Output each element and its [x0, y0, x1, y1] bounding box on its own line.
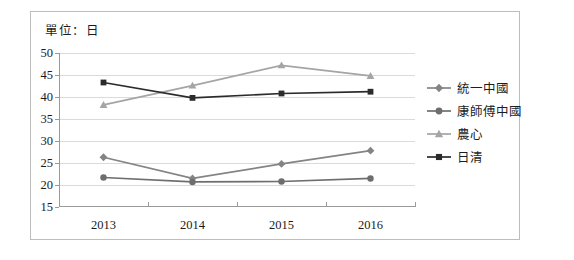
y-axis-label: 25	[41, 156, 54, 171]
legend-item-label: 日清	[457, 147, 483, 166]
y-axis-label: 35	[41, 112, 54, 127]
data-point	[368, 89, 374, 95]
legend-item[interactable]: 日清	[426, 145, 518, 168]
data-point	[189, 179, 195, 185]
chart-frame: 單位：日 1520253035404550 2013201420152016 統…	[30, 11, 520, 240]
series-line	[104, 151, 371, 179]
data-point	[367, 175, 373, 181]
y-axis-label: 30	[41, 134, 54, 149]
series-line	[104, 178, 371, 182]
legend-item-label: 農心	[457, 124, 483, 143]
data-point	[278, 178, 284, 184]
circle-marker-icon	[426, 104, 452, 118]
series-triangle	[100, 61, 375, 108]
data-point	[101, 80, 107, 86]
series-circle	[100, 174, 373, 185]
data-point	[100, 153, 108, 161]
legend-item[interactable]: 農心	[426, 122, 518, 145]
x-axis-label: 2014	[180, 218, 205, 233]
y-axis-label: 40	[41, 90, 54, 105]
series-layer	[59, 53, 415, 207]
series-square	[101, 80, 374, 101]
legend: 統一中國康師傅中國農心日清	[426, 76, 518, 168]
y-axis-label: 45	[41, 68, 54, 83]
legend-item[interactable]: 統一中國	[426, 76, 518, 99]
y-axis-label: 50	[41, 46, 54, 61]
series-line	[104, 65, 371, 105]
chart-screenshot: 單位：日 1520253035404550 2013201420152016 統…	[0, 0, 574, 260]
x-axis-label: 2013	[91, 218, 116, 233]
x-axis-label: 2015	[269, 218, 294, 233]
data-point	[100, 174, 106, 180]
data-point	[279, 91, 285, 97]
triangle-marker-icon	[426, 127, 452, 141]
series-diamond	[100, 147, 375, 183]
y-axis-label: 20	[41, 178, 54, 193]
legend-item[interactable]: 康師傅中國	[426, 99, 518, 122]
x-axis-label: 2016	[358, 218, 383, 233]
data-point	[190, 95, 196, 101]
data-point	[278, 160, 286, 168]
legend-item-label: 康師傅中國	[457, 101, 522, 120]
y-axis-tick	[55, 207, 59, 208]
diamond-marker-icon	[426, 81, 452, 95]
x-axis-tick	[415, 202, 416, 207]
square-marker-icon	[426, 150, 452, 164]
data-point	[367, 147, 375, 155]
plot-area: 1520253035404550 2013201420152016	[59, 53, 415, 207]
y-axis-label: 15	[41, 200, 54, 215]
unit-label: 單位：日	[45, 20, 99, 39]
legend-item-label: 統一中國	[457, 78, 509, 97]
